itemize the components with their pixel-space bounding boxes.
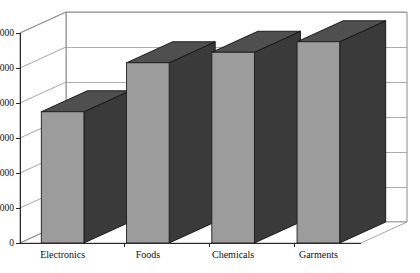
y-tick-label-4000: 4000 — [0, 168, 14, 178]
y-tick-label-12000: 12000 — [0, 28, 14, 38]
bar-front-face — [127, 63, 170, 243]
y-tick-label-2000: 2000 — [0, 203, 14, 213]
category-label-garments: Garments — [299, 249, 338, 260]
bar-chart-3d: 0 2000 4000 6000 8000 10000 12000 Electr… — [0, 0, 420, 273]
bar-front-face — [297, 42, 340, 243]
category-labels: ElectronicsFoodsChemicalsGarments — [40, 249, 338, 260]
category-label-chemicals: Chemicals — [212, 249, 254, 260]
bar-electronics[interactable] — [41, 91, 130, 243]
x-axis — [20, 243, 361, 247]
y-tick-label-6000: 6000 — [0, 133, 14, 143]
y-tick-labels: 0 2000 4000 6000 8000 10000 12000 — [0, 28, 14, 248]
y-axis — [16, 33, 20, 243]
bar-chemicals[interactable] — [212, 31, 301, 243]
y-tick-label-0: 0 — [9, 238, 14, 248]
category-label-electronics: Electronics — [40, 249, 85, 260]
bar-front-face — [212, 52, 255, 243]
bar-side-face — [169, 42, 215, 243]
category-label-foods: Foods — [136, 249, 161, 260]
bar-garments[interactable] — [297, 21, 386, 243]
bar-foods[interactable] — [127, 42, 216, 243]
y-tick-label-8000: 8000 — [0, 98, 14, 108]
bar-side-face — [84, 91, 130, 243]
bar-front-face — [41, 112, 84, 243]
bar-side-face — [254, 31, 300, 243]
bar-side-face — [340, 21, 386, 243]
y-tick-label-10000: 10000 — [0, 63, 14, 73]
chart-container: 0 2000 4000 6000 8000 10000 12000 Electr… — [0, 0, 420, 273]
